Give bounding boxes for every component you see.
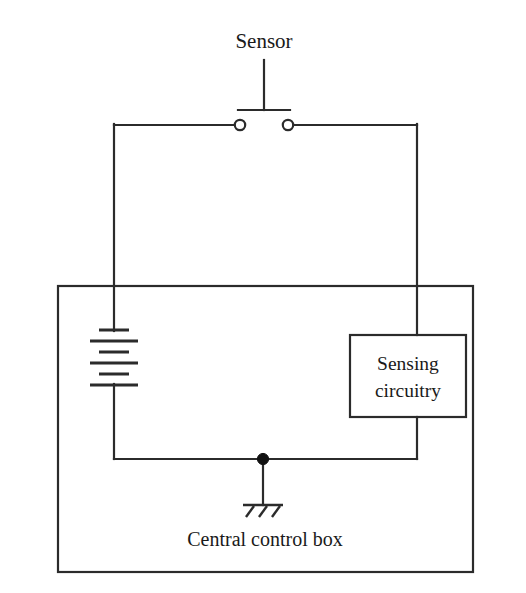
central-control-box-label: Central control box: [187, 528, 343, 550]
circuit-canvas: Sensor: [0, 0, 526, 593]
ground-hatch-3-icon: [272, 506, 280, 517]
sensing-circuitry-label-line1: Sensing: [377, 353, 439, 374]
sensor-label: Sensor: [235, 29, 292, 53]
sensing-circuitry-block[interactable]: [350, 335, 466, 417]
junction-dot-icon: [257, 453, 268, 464]
ground-hatch-1-icon: [246, 506, 254, 517]
ground-hatch-2-icon: [259, 506, 267, 517]
circuit-diagram: Sensor: [0, 0, 526, 593]
switch-terminal-right-icon: [283, 120, 293, 130]
sensing-circuitry-label-line2: circuitry: [375, 380, 441, 401]
switch-terminal-left-icon: [235, 120, 245, 130]
